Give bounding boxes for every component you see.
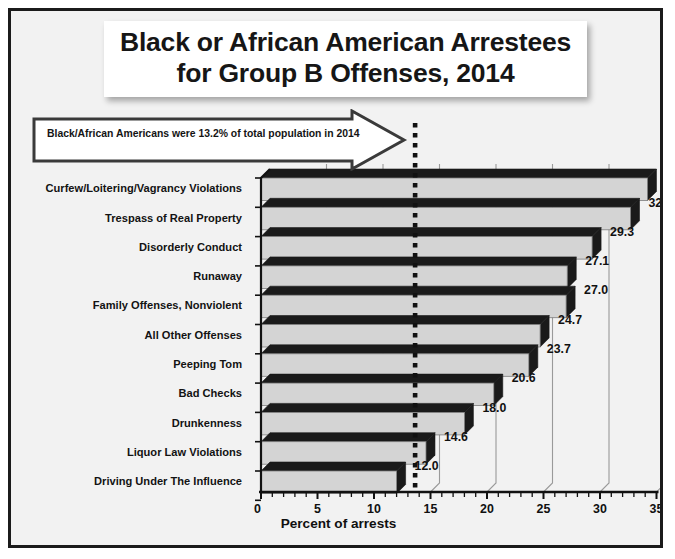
bar-3d	[261, 403, 473, 435]
bar-3d	[261, 198, 640, 230]
title-line-1: Black or African American Arrestees	[104, 27, 587, 58]
bar-3d	[261, 316, 549, 348]
annotation-callout: Black/African Americans were 13.2% of to…	[30, 109, 408, 171]
bar-value-label: 14.6	[444, 431, 468, 443]
category-label: Driving Under The Influence	[94, 476, 242, 487]
category-label: Disorderly Conduct	[139, 242, 242, 253]
category-label: Peeping Tom	[173, 359, 242, 370]
bar-value-label: 29.3	[610, 226, 634, 238]
annotation-callout-text: Black/African Americans were 13.2% of to…	[47, 128, 347, 139]
bar-value-label: 20.6	[512, 372, 536, 384]
category-label: Bad Checks	[178, 388, 242, 399]
x-axis-title: Percent of arrests	[11, 516, 663, 531]
category-label: Trespass of Real Property	[105, 213, 242, 224]
bar-3d	[261, 228, 601, 260]
page-title: Black or African American Arrestees for …	[104, 21, 587, 97]
x-tick-label: 35	[637, 503, 664, 515]
x-tick-label: 20	[467, 503, 507, 515]
category-label: Curfew/Loitering/Vagrancy Violations	[46, 183, 242, 194]
bar-value-label: 32.7	[649, 197, 664, 209]
bar-3d	[261, 286, 575, 318]
x-tick-label: 10	[354, 503, 394, 515]
x-tick-label: 30	[580, 503, 620, 515]
bar-value-label: 12.0	[415, 460, 439, 472]
x-tick-label: 5	[298, 503, 338, 515]
bar-3d	[261, 433, 435, 465]
gridline	[657, 164, 664, 492]
callout-arrow-shape	[30, 109, 408, 171]
category-label: Family Offenses, Nonviolent	[93, 300, 242, 311]
bar-value-label: 24.7	[558, 314, 582, 326]
bar-3d	[261, 462, 406, 494]
chart-frame: Black or African American Arrestees for …	[8, 8, 663, 548]
category-label: Drunkenness	[172, 418, 242, 429]
bar-3d	[261, 374, 503, 406]
x-tick-label: 25	[524, 503, 564, 515]
title-line-2: for Group B Offenses, 2014	[104, 58, 587, 89]
bar-value-label: 27.0	[584, 284, 608, 296]
category-label: Liquor Law Violations	[127, 447, 242, 458]
bar-3d	[261, 169, 656, 201]
bar-3d	[261, 345, 538, 377]
bar-3d	[261, 257, 576, 289]
category-label: All Other Offenses	[145, 330, 242, 341]
bar-value-label: 18.0	[482, 402, 506, 414]
x-tick-label: 0	[251, 503, 261, 515]
category-label: Runaway	[193, 271, 242, 282]
bar-value-label: 27.1	[585, 255, 609, 267]
bar-value-label: 23.7	[547, 343, 571, 355]
x-tick-label: 15	[411, 503, 451, 515]
